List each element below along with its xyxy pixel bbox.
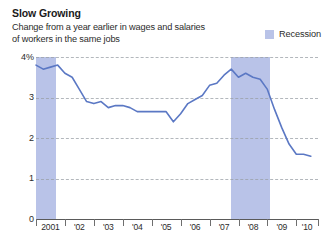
recession-swatch-icon [265,30,274,39]
legend-item-label: Recession [279,29,321,39]
y-tick-label-3: 3 [4,92,34,102]
series-line-wages [36,57,318,219]
chart-legend: Recession [265,29,321,39]
chart-container: Slow Growing Change from a year earlier … [0,0,330,246]
x-axis-label-08: '08 [239,222,268,232]
x-axis-label-05: '05 [152,222,181,232]
x-axis-label-04: '04 [123,222,152,232]
subtitle-line-2: of workers in the same jobs [12,34,222,46]
plot-area [36,57,318,219]
chart-subtitle: Change from a year earlier in wages and … [12,22,222,45]
x-tick-end [318,219,319,226]
x-axis-labels: 2001'02'03'04'05'06'07'08'09'10 [36,222,318,238]
x-axis-label-03: '03 [94,222,123,232]
x-axis-label-10: '10 [296,222,318,232]
y-tick-label-1: 1 [4,173,34,183]
y-tick-label-2: 2 [4,133,34,143]
x-axis-label-06: '06 [181,222,210,232]
y-tick-label-0: 0 [4,214,34,224]
subtitle-line-1: Change from a year earlier in wages and … [12,22,205,32]
x-axis-label-09: '09 [267,222,296,232]
x-axis-label-2001: 2001 [36,222,65,232]
x-axis-label-07: '07 [210,222,239,232]
x-axis-label-02: '02 [65,222,94,232]
y-axis: 4% 3 2 1 0 [0,0,34,246]
y-tick-label-4: 4% [4,52,34,62]
